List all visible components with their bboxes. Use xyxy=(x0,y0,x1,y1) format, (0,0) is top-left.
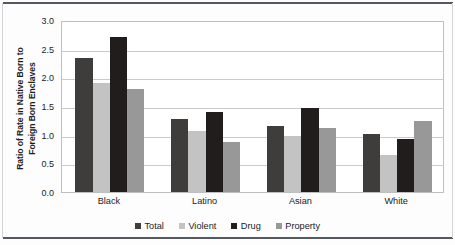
top-divider-rule xyxy=(3,2,453,4)
chart-figure: Ratio of Rate in Native Born to Foreign … xyxy=(0,0,455,245)
y-axis-tick-label: 2.5 xyxy=(41,45,54,55)
bar xyxy=(284,136,301,192)
legend-label: Drug xyxy=(241,221,261,231)
legend-swatch-icon xyxy=(231,223,237,229)
legend-label: Violent xyxy=(188,221,216,231)
x-axis-category-label: White xyxy=(384,196,408,206)
chart-legend: TotalViolentDrugProperty xyxy=(0,221,455,231)
legend-item: Property xyxy=(276,221,320,231)
bar xyxy=(188,131,205,192)
x-axis-category-labels: BlackLatinoAsianWhite xyxy=(61,196,444,210)
bar xyxy=(223,142,240,192)
bar xyxy=(301,108,318,192)
y-axis-title-line-1: Ratio of Rate in Native Born to xyxy=(15,14,27,204)
bar xyxy=(363,134,380,192)
bar-series-group xyxy=(62,22,443,192)
x-axis-category-label: Latino xyxy=(192,196,217,206)
right-border-line xyxy=(452,3,453,238)
bar xyxy=(206,112,223,192)
legend-item: Violent xyxy=(179,221,216,231)
bar xyxy=(397,139,414,192)
plot-area xyxy=(61,21,444,193)
x-axis-category-label: Black xyxy=(98,196,120,206)
bar xyxy=(319,128,336,192)
legend-label: Property xyxy=(285,221,320,231)
bar xyxy=(93,83,110,192)
legend-swatch-icon xyxy=(276,223,282,229)
y-axis-tick-label: 0.5 xyxy=(41,159,54,169)
bottom-divider-rule xyxy=(3,237,453,239)
bar xyxy=(267,126,284,192)
left-border-line xyxy=(2,3,3,238)
bar xyxy=(171,119,188,192)
y-axis-tick-label: 3.0 xyxy=(41,16,54,26)
y-axis-tick-label: 2.0 xyxy=(41,73,54,83)
bar xyxy=(110,37,127,192)
bar xyxy=(75,58,92,192)
y-axis-tick-label: 1.5 xyxy=(41,102,54,112)
legend-swatch-icon xyxy=(135,223,141,229)
legend-label: Total xyxy=(145,221,164,231)
legend-swatch-icon xyxy=(179,223,185,229)
bar xyxy=(414,121,431,192)
bar xyxy=(127,89,144,192)
y-axis-tick-label: 1.0 xyxy=(41,131,54,141)
y-axis-tick-label: 0.0 xyxy=(41,188,54,198)
legend-item: Total xyxy=(135,221,164,231)
legend-item: Drug xyxy=(231,221,260,231)
y-axis-tick-labels: 0.00.51.01.52.02.53.0 xyxy=(28,21,58,193)
bar xyxy=(380,155,397,192)
x-axis-category-label: Asian xyxy=(289,196,312,206)
